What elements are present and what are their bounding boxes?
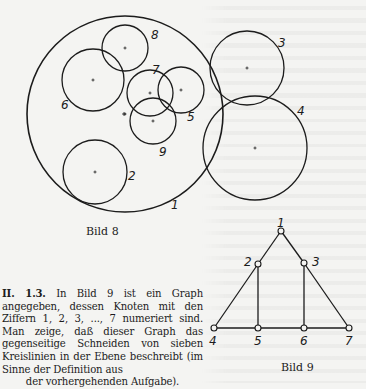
node-circle-icon xyxy=(346,325,352,331)
circle-9: 9 xyxy=(130,98,176,159)
problem-statement: II. 1.3. In Bild 9 ist ein Graph angegeb… xyxy=(2,288,203,389)
node-circle-icon xyxy=(301,260,307,266)
circle-label: 2 xyxy=(128,169,136,183)
node-label: 1 xyxy=(277,216,285,230)
circle-6: 6 xyxy=(61,49,124,112)
center-mark-icon xyxy=(149,92,152,95)
circle-label: 6 xyxy=(61,98,69,112)
circle-8: 8 xyxy=(102,25,159,71)
graph-node-4: 4 xyxy=(209,325,217,348)
graph-edge-3-7 xyxy=(304,263,349,328)
circle-2: 2 xyxy=(63,140,136,204)
problem-text-last-line: der vorhergehenden Aufgabe). xyxy=(2,376,203,389)
graph-node-1: 1 xyxy=(277,216,285,234)
center-mark-icon xyxy=(254,147,257,150)
graph-edge-1-2 xyxy=(258,231,281,264)
center-mark-icon xyxy=(94,171,97,174)
circle-3: 3 xyxy=(210,31,286,105)
circle-label: 5 xyxy=(187,110,195,124)
center-mark-icon xyxy=(152,120,155,123)
problem-text: In Bild 9 ist ein Graph angegeben, desse… xyxy=(2,288,203,375)
circle-4: 4 xyxy=(203,96,307,200)
figure-9-caption: Bild 9 xyxy=(281,361,314,374)
circle-label: 1 xyxy=(171,198,179,212)
node-circle-icon xyxy=(211,325,217,331)
circle-label: 3 xyxy=(278,36,286,50)
center-mark-icon xyxy=(246,67,249,70)
circle-label: 4 xyxy=(297,104,305,118)
node-label: 5 xyxy=(254,334,262,348)
center-mark-icon xyxy=(124,47,127,50)
graph-edge-2-4 xyxy=(214,264,258,328)
graph-node-6: 6 xyxy=(300,325,308,348)
problem-number: II. 1.3. xyxy=(2,288,46,299)
node-label: 6 xyxy=(300,334,308,348)
graph-node-5: 5 xyxy=(254,325,262,348)
graph-edge-1-3 xyxy=(281,231,304,263)
graph-node-2: 2 xyxy=(244,255,261,269)
node-circle-icon xyxy=(255,261,261,267)
center-mark-icon xyxy=(92,79,95,82)
graph-node-7: 7 xyxy=(345,325,353,348)
node-label: 7 xyxy=(345,334,353,348)
circle-label: 9 xyxy=(159,145,167,159)
center-mark-icon xyxy=(180,89,183,92)
node-label: 3 xyxy=(312,255,320,269)
graph-edges xyxy=(214,231,349,328)
circle-label: 7 xyxy=(152,63,160,77)
figure-9-graph: 1234567 xyxy=(209,216,353,348)
node-circle-icon xyxy=(255,325,261,331)
node-circle-icon xyxy=(301,325,307,331)
figure-8-caption: Bild 8 xyxy=(86,225,119,238)
figure-8-circles: 123456789 xyxy=(27,16,307,212)
node-label: 2 xyxy=(244,255,252,269)
node-label: 4 xyxy=(209,334,217,348)
circle-label: 8 xyxy=(151,28,159,42)
